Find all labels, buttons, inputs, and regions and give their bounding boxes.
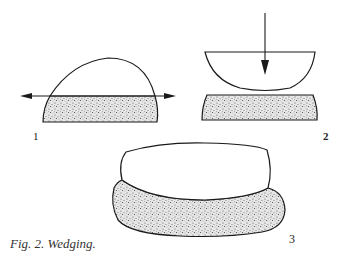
flattened-clay-top xyxy=(121,143,271,200)
panel-3-label: 3 xyxy=(289,232,295,247)
stippled-slab xyxy=(43,96,158,122)
clay-dome xyxy=(50,58,155,96)
panel-3 xyxy=(113,143,285,237)
panel-2 xyxy=(202,13,317,120)
wedging-diagram xyxy=(0,0,345,256)
wedging-figure: 1 2 3 Fig. 2. Wedging. xyxy=(0,0,345,256)
arrow-left-icon xyxy=(20,93,32,99)
panel-1-label: 1 xyxy=(33,130,39,142)
figure-caption: Fig. 2. Wedging. xyxy=(10,236,96,252)
arrow-right-icon xyxy=(164,93,176,99)
clay-bowl xyxy=(205,52,315,91)
stippled-slab xyxy=(202,95,317,120)
panel-1 xyxy=(20,58,176,122)
panel-2-label: 2 xyxy=(323,130,329,142)
